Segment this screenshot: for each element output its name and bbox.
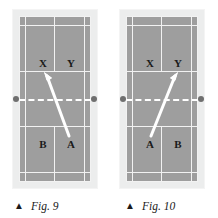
court-line-centre-bottom xyxy=(161,126,162,182)
player-label-b: B xyxy=(39,139,46,150)
player-label-a: A xyxy=(146,139,154,150)
court-line-short-service-top xyxy=(19,71,91,72)
court-line-short-service-bottom xyxy=(19,126,91,127)
player-label-b: B xyxy=(174,139,181,150)
court-frame: X Y A B xyxy=(120,10,204,188)
court-line-doubles-long-service-bottom xyxy=(19,172,91,173)
net-post-right-icon xyxy=(198,96,204,102)
net-post-left-icon xyxy=(120,96,126,102)
court-line-back-top xyxy=(126,16,198,17)
player-label-a: A xyxy=(67,139,75,150)
caption-label: Fig. 10 xyxy=(142,201,175,213)
court-surface: X Y A B xyxy=(126,16,198,182)
net-line xyxy=(19,99,91,101)
court-line-centre-top xyxy=(54,16,55,71)
court-line-doubles-long-service-bottom xyxy=(126,172,198,173)
player-label-y: Y xyxy=(174,58,182,69)
court-line-short-service-bottom xyxy=(126,126,198,127)
caption-label: Fig. 9 xyxy=(31,201,58,213)
figure-caption: ▲ Fig. 10 xyxy=(109,201,218,213)
court-line-back-bottom xyxy=(19,181,91,182)
player-label-y: Y xyxy=(67,58,75,69)
caption-triangle-icon: ▲ xyxy=(125,201,135,211)
court-line-short-service-top xyxy=(126,71,198,72)
figure-fig-9: X Y B A ▲ Fig. 9 xyxy=(0,6,109,218)
caption-triangle-icon: ▲ xyxy=(14,201,24,211)
court-surface: X Y B A xyxy=(19,16,91,182)
player-label-x: X xyxy=(146,58,154,69)
court-line-doubles-long-service-top xyxy=(126,25,198,26)
court-line-back-top xyxy=(19,16,91,17)
net-post-right-icon xyxy=(91,96,97,102)
court-frame: X Y B A xyxy=(13,10,97,188)
player-label-x: X xyxy=(39,58,47,69)
figure-caption: ▲ Fig. 9 xyxy=(0,201,109,213)
court-line-centre-bottom xyxy=(54,126,55,182)
net-post-left-icon xyxy=(13,96,19,102)
court-line-back-bottom xyxy=(126,181,198,182)
court-line-centre-top xyxy=(161,16,162,71)
court-line-doubles-long-service-top xyxy=(19,25,91,26)
net-line xyxy=(126,99,198,101)
figure-fig-10: X Y A B ▲ Fig. 10 xyxy=(109,6,218,218)
figure-pair: X Y B A ▲ Fig. 9 xyxy=(0,0,218,218)
